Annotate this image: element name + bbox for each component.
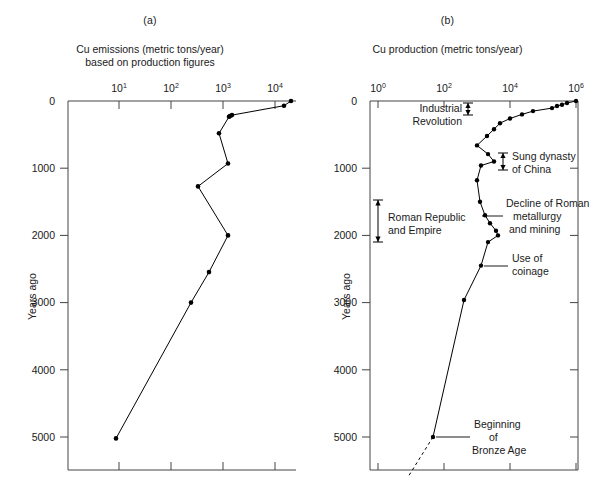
panel-a-axes <box>68 101 296 470</box>
panel-a-xticks-bottom <box>119 462 275 470</box>
panel-b-plot: 100 102 104 106 0 1000 <box>300 0 595 492</box>
panel-a: (a) Cu emissions (metric tons/year) base… <box>0 0 300 492</box>
svg-text:5000: 5000 <box>32 431 56 443</box>
svg-text:3000: 3000 <box>334 296 358 308</box>
panel-a-series-points <box>114 99 294 441</box>
annotation-roman-republic: Roman Republic and Empire <box>373 200 466 242</box>
industrial-revolution-label-line2: Revolution <box>412 115 462 127</box>
decline-roman-label-line1: Decline of Roman <box>506 197 590 209</box>
svg-text:103: 103 <box>215 82 231 94</box>
industrial-revolution-label-line1: Industrial <box>419 102 462 114</box>
roman-republic-bracket <box>373 200 383 242</box>
panel-b-ytick-labels: 0 1000 2000 3000 4000 5000 <box>334 95 358 443</box>
panel-a-yticks <box>60 168 68 437</box>
svg-text:104: 104 <box>502 82 518 94</box>
bronze-age-label-line1: Beginning <box>474 418 521 430</box>
panel-a-ytick-labels: 0 1000 2000 3000 4000 5000 <box>32 95 56 443</box>
panel-b-xticks-bottom <box>378 463 576 470</box>
svg-text:100: 100 <box>370 82 386 94</box>
use-of-coinage-label-line2: coinage <box>512 265 549 277</box>
panel-a-xtick-labels: 101 102 103 104 <box>111 82 283 94</box>
svg-text:2000: 2000 <box>334 229 358 241</box>
decline-roman-label-line3: and mining <box>509 223 561 235</box>
svg-text:102: 102 <box>163 82 179 94</box>
svg-text:104: 104 <box>267 82 283 94</box>
sung-dynasty-label-line1: Sung dynasty <box>512 150 576 162</box>
svg-text:0: 0 <box>351 95 357 107</box>
panel-b-yticks-left <box>362 168 370 437</box>
svg-text:0: 0 <box>49 95 55 107</box>
annotation-sung-dynasty: Sung dynasty of China <box>498 150 576 175</box>
annotation-beginning-bronze-age: Beginning of Bronze Age <box>436 418 526 456</box>
svg-text:5000: 5000 <box>334 431 358 443</box>
panel-a-xticks-top <box>119 101 275 109</box>
svg-text:3000: 3000 <box>32 296 56 308</box>
figure-root: (a) Cu emissions (metric tons/year) base… <box>0 0 595 492</box>
roman-republic-label-line2: and Empire <box>388 224 442 236</box>
use-of-coinage-label-line1: Use of <box>512 252 542 264</box>
sung-dynasty-label-line2: of China <box>512 163 551 175</box>
bronze-age-label-line2: of <box>489 431 498 443</box>
svg-text:4000: 4000 <box>334 364 358 376</box>
sung-dynasty-bracket <box>498 153 508 170</box>
panel-b: (b) Cu production (metric tons/year) Yea… <box>300 0 595 492</box>
svg-text:102: 102 <box>436 82 452 94</box>
svg-text:4000: 4000 <box>32 364 56 376</box>
industrial-revolution-bracket <box>463 103 473 115</box>
bronze-age-label-line3: Bronze Age <box>472 444 526 456</box>
svg-text:1000: 1000 <box>334 162 358 174</box>
decline-roman-label-line2: metallurgy <box>513 210 562 222</box>
panel-a-plot: 101 102 103 104 0 1000 2000 3000 4000 50… <box>0 0 300 492</box>
annotation-industrial-revolution: Industrial Revolution <box>412 102 473 127</box>
svg-text:2000: 2000 <box>32 229 56 241</box>
roman-republic-label-line1: Roman Republic <box>388 211 466 223</box>
panel-b-xtick-labels: 100 102 104 106 <box>370 82 584 94</box>
annotation-decline-roman-metallurgy: Decline of Roman metallurgy and mining <box>482 197 590 235</box>
annotation-use-of-coinage: Use of coinage <box>484 252 549 277</box>
svg-text:101: 101 <box>111 82 127 94</box>
panel-b-xticks-top <box>378 101 576 108</box>
svg-text:1000: 1000 <box>32 162 56 174</box>
panel-b-dashed-extension <box>408 437 433 477</box>
panel-a-series-line <box>116 101 291 438</box>
svg-text:106: 106 <box>568 82 584 94</box>
